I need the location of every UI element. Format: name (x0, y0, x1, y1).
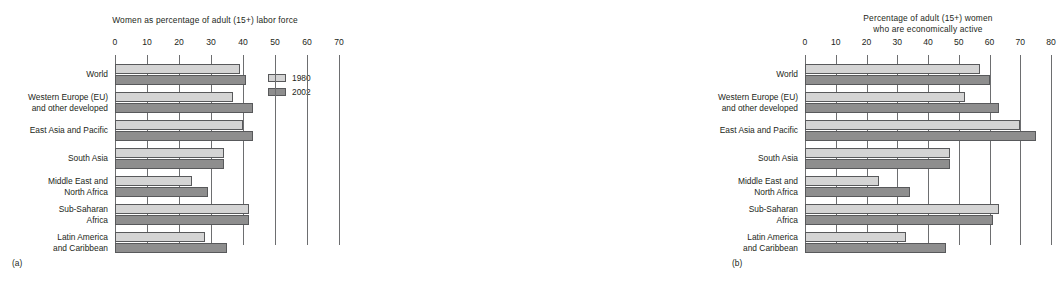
x-tick-label-20: 20 (164, 37, 194, 47)
bar-1980[interactable] (115, 92, 233, 102)
x-tick-label-40: 40 (228, 37, 258, 47)
plot-area-b: 01020304050607080WorldWestern Europe (EU… (805, 55, 1051, 245)
gridline-80 (1051, 55, 1052, 245)
category-label-line: Middle East and (680, 176, 798, 187)
bar-group-row: Western Europe (EU)and other developed (115, 91, 339, 115)
bar-2002[interactable] (115, 159, 224, 169)
category-label: Middle East andNorth Africa (0, 176, 115, 197)
bar-1980[interactable] (115, 64, 240, 74)
bar-1980[interactable] (115, 232, 205, 242)
category-label-line: Sub-Saharan (680, 204, 798, 215)
bar-group-row: Middle East andNorth Africa (805, 175, 1051, 199)
category-label-line: Western Europe (EU) (680, 92, 798, 103)
category-label-line: World (680, 69, 798, 80)
bar-2002[interactable] (805, 75, 990, 85)
x-tick-label-30: 30 (882, 37, 912, 47)
chart-title-b-line1: Percentage of adult (15+) women (798, 13, 1058, 24)
category-label-line: Latin America (680, 232, 798, 243)
bar-2002[interactable] (805, 159, 950, 169)
bar-2002[interactable] (115, 131, 253, 141)
category-label-line: Western Europe (EU) (0, 92, 108, 103)
x-tick-label-70: 70 (1005, 37, 1035, 47)
category-label: World (680, 69, 805, 80)
bar-group-row: Western Europe (EU)and other developed (805, 91, 1051, 115)
bar-2002[interactable] (115, 215, 249, 225)
x-tick-label-10: 10 (821, 37, 851, 47)
bar-group-row: East Asia and Pacific (805, 119, 1051, 143)
bar-group-row: South Asia (805, 147, 1051, 171)
bar-group-row: East Asia and Pacific (115, 119, 339, 143)
bar-group-row: World (115, 63, 339, 87)
bar-group-row: Sub-SaharanAfrica (115, 203, 339, 227)
category-label: Western Europe (EU)and other developed (680, 92, 805, 113)
x-tick-label-50: 50 (260, 37, 290, 47)
x-tick-label-0: 0 (100, 37, 130, 47)
x-tick-label-60: 60 (292, 37, 322, 47)
category-label: South Asia (680, 153, 805, 164)
caption-a: (a) (12, 258, 22, 268)
bar-2002[interactable] (115, 187, 208, 197)
bar-1980[interactable] (805, 92, 965, 102)
category-label: Latin Americaand Caribbean (0, 232, 115, 253)
bar-1980[interactable] (115, 204, 249, 214)
bar-2002[interactable] (805, 243, 946, 253)
x-tick-label-50: 50 (944, 37, 974, 47)
category-label-line: North Africa (0, 187, 108, 198)
category-label: Sub-SaharanAfrica (0, 204, 115, 225)
bar-1980[interactable] (115, 120, 243, 130)
category-label: East Asia and Pacific (0, 125, 115, 136)
bar-1980[interactable] (115, 176, 192, 186)
category-label: Latin Americaand Caribbean (680, 232, 805, 253)
bar-1980[interactable] (805, 120, 1020, 130)
bar-group-row: South Asia (115, 147, 339, 171)
x-tick-label-60: 60 (975, 37, 1005, 47)
x-tick-label-30: 30 (196, 37, 226, 47)
category-label: South Asia (0, 153, 115, 164)
bar-group-row: World (805, 63, 1051, 87)
bar-group-row: Sub-SaharanAfrica (805, 203, 1051, 227)
x-tick-label-70: 70 (324, 37, 354, 47)
x-tick-label-40: 40 (913, 37, 943, 47)
category-label-line: Latin America (0, 232, 108, 243)
bar-1980[interactable] (805, 232, 906, 242)
bar-2002[interactable] (805, 187, 910, 197)
chart-title-a: Women as percentage of adult (15+) labor… (60, 15, 350, 26)
bar-2002[interactable] (805, 103, 999, 113)
category-label: Middle East andNorth Africa (680, 176, 805, 197)
category-label-line: East Asia and Pacific (0, 125, 108, 136)
category-label-line: Africa (680, 215, 798, 226)
category-label-line: South Asia (680, 153, 798, 164)
bar-2002[interactable] (115, 75, 246, 85)
bar-1980[interactable] (805, 64, 980, 74)
x-tick-label-80: 80 (1036, 37, 1061, 47)
bar-1980[interactable] (805, 204, 999, 214)
bar-2002[interactable] (115, 103, 253, 113)
chart-title-b: Percentage of adult (15+) women who are … (798, 13, 1058, 35)
bar-2002[interactable] (805, 215, 993, 225)
bar-1980[interactable] (805, 148, 950, 158)
category-label-line: East Asia and Pacific (680, 125, 798, 136)
category-label: Western Europe (EU)and other developed (0, 92, 115, 113)
x-tick-label-10: 10 (132, 37, 162, 47)
bar-1980[interactable] (805, 176, 879, 186)
category-label-line: Africa (0, 215, 108, 226)
bar-2002[interactable] (115, 243, 227, 253)
bar-1980[interactable] (115, 148, 224, 158)
category-label-line: and other developed (0, 103, 108, 114)
category-label-line: World (0, 69, 108, 80)
bar-group-row: Latin Americaand Caribbean (115, 231, 339, 255)
caption-b: (b) (732, 258, 742, 268)
category-label-line: North Africa (680, 187, 798, 198)
category-label-line: South Asia (0, 153, 108, 164)
category-label-line: Sub-Saharan (0, 204, 108, 215)
category-label-line: Middle East and (0, 176, 108, 187)
category-label-line: and other developed (680, 103, 798, 114)
category-label-line: and Caribbean (680, 243, 798, 254)
plot-area-a: 1980 2002 010203040506070WorldWestern Eu… (115, 55, 339, 245)
chart-panel-a: Women as percentage of adult (15+) labor… (0, 0, 358, 281)
bar-group-row: Middle East andNorth Africa (115, 175, 339, 199)
category-label: East Asia and Pacific (680, 125, 805, 136)
bar-2002[interactable] (805, 131, 1036, 141)
bar-group-row: Latin Americaand Caribbean (805, 231, 1051, 255)
